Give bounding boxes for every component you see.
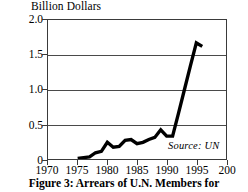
source-annotation: Source: UN bbox=[168, 140, 219, 151]
figure-caption: Figure 3: Arrears of U.N. Members for bbox=[0, 177, 248, 190]
plot-area bbox=[47, 19, 227, 160]
y-tick-label-2-0: 2.0 bbox=[0, 14, 43, 26]
figure-container: Billion Dollars 2.0 1.5 1.0 0.5 0 1970 1… bbox=[0, 0, 248, 192]
y-tick-label-1-0: 1.0 bbox=[0, 84, 43, 96]
y-tick-label-0-5: 0.5 bbox=[0, 120, 43, 132]
x-tick-label-2000: 200 bbox=[205, 164, 248, 176]
y-axis-title: Billion Dollars bbox=[31, 0, 101, 13]
series-line-arrears bbox=[48, 20, 226, 159]
y-tick-label-1-5: 1.5 bbox=[0, 49, 43, 61]
